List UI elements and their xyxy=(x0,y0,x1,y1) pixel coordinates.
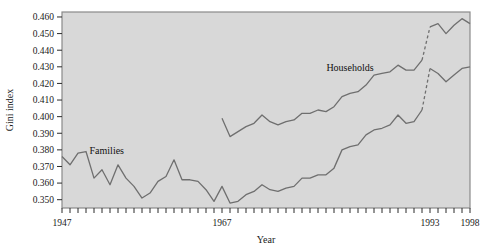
series-label-families: Families xyxy=(90,145,125,156)
y-tick-label: 0.360 xyxy=(33,178,55,188)
gini-index-chart: 0.4600.4500.4400.4300.4200.4100.4000.390… xyxy=(0,0,483,250)
y-tick-label: 0.410 xyxy=(33,95,55,105)
y-tick-label: 0.460 xyxy=(33,12,55,22)
y-tick-label: 0.400 xyxy=(33,112,55,122)
y-tick-label: 0.440 xyxy=(33,46,55,56)
y-tick-label: 0.350 xyxy=(33,195,55,205)
x-axis-title: Year xyxy=(257,234,276,245)
y-axis-title: Gini index xyxy=(4,89,15,132)
y-tick-label: 0.450 xyxy=(33,29,55,39)
y-tick-label: 0.430 xyxy=(33,62,55,72)
y-tick-label: 0.370 xyxy=(33,162,55,172)
y-tick-label: 0.420 xyxy=(33,79,55,89)
x-tick-label: 1947 xyxy=(53,218,72,228)
plot-area xyxy=(62,12,470,208)
plot-background-rect xyxy=(62,12,470,208)
chart-canvas: 0.4600.4500.4400.4300.4200.4100.4000.390… xyxy=(0,0,483,250)
y-tick-label: 0.380 xyxy=(33,145,55,155)
x-tick-label: 1998 xyxy=(461,218,480,228)
series-label-households: Households xyxy=(326,62,373,73)
y-tick-label: 0.390 xyxy=(33,129,55,139)
x-tick-label: 1993 xyxy=(421,218,440,228)
x-tick-label: 1967 xyxy=(213,218,232,228)
